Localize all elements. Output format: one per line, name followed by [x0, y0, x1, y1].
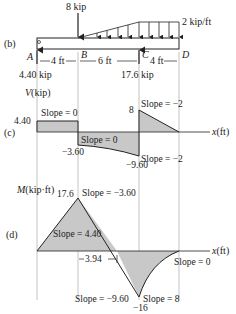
moment-panel: M(kip·ft) (d) x(ft) 17.6 −16 Slope = −3.… — [6, 184, 229, 313]
dimension-ab: 4 ft — [51, 55, 65, 66]
support-a-label: A — [26, 51, 34, 62]
shear-slope-ab: Slope = 0 — [41, 108, 78, 118]
dimension-cd: 4 ft — [150, 55, 164, 66]
dimension-bc: 6 ft — [98, 55, 112, 66]
moment-fill-negative — [117, 251, 179, 297]
moment-axis-label: M(kip·ft) — [16, 184, 54, 196]
beam-panel: (b) 8 kip 2 kip/ft A B C D — [4, 1, 211, 80]
moment-value-c: −16 — [133, 303, 148, 313]
moment-x-axis-label: x(ft) — [211, 245, 229, 257]
support-c-label: C — [142, 49, 149, 60]
panel-label-b: (b) — [4, 38, 16, 50]
panel-label-d: (d) — [6, 229, 18, 241]
shear-axis-label: V(kip) — [25, 87, 51, 99]
shear-slope-c-left: Slope = −2 — [141, 154, 183, 164]
reaction-c-label: 17.6 kip — [121, 69, 154, 80]
beam-body — [37, 38, 179, 49]
moment-slope-c-right: Slope = 8 — [143, 294, 180, 304]
moment-slope-d: Slope = 0 — [174, 257, 211, 267]
reaction-a-label: 4.40 kip — [19, 69, 52, 80]
shear-slope-c-right: Slope = −2 — [141, 99, 183, 109]
beam-analysis-diagram: (b) 8 kip 2 kip/ft A B C D — [0, 0, 236, 314]
moment-fill-positive — [37, 198, 117, 251]
support-d-label: D — [181, 49, 190, 60]
shear-value-a: 4.40 — [14, 116, 31, 126]
distributed-load-label: 2 kip/ft — [182, 16, 211, 27]
zero-cross-distance: 3.94 — [85, 254, 102, 264]
moment-slope-b: Slope = −3.60 — [82, 188, 136, 198]
shear-value-c-right: 8 — [129, 105, 134, 115]
point-load-label: 8 kip — [66, 1, 86, 12]
shear-panel: V(kip) (c) x(ft) 4.40 −3.60 8 −9.60 Slop… — [4, 87, 229, 170]
moment-slope-c-left: Slope = −9.60 — [75, 294, 129, 304]
moment-value-b: 17.6 — [57, 189, 74, 199]
shear-value-b: −3.60 — [62, 147, 84, 157]
moment-slope-a: Slope = 4.40 — [53, 229, 102, 239]
shear-slope-b: Slope = 0 — [81, 135, 118, 145]
panel-label-c: (c) — [4, 127, 15, 139]
distributed-load-outline — [78, 22, 179, 38]
shear-x-axis-label: x(ft) — [211, 126, 229, 138]
support-b-label: B — [81, 49, 87, 60]
